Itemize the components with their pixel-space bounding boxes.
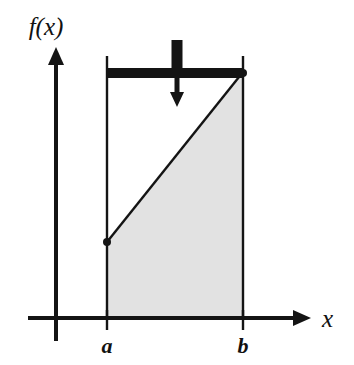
force-arrow-shaft xyxy=(175,76,180,92)
downward-force-arrow-icon xyxy=(170,92,184,107)
area-under-curve-region xyxy=(107,72,243,318)
diagram-canvas: f(x) x a b xyxy=(0,0,354,365)
right-arrow-axis-icon xyxy=(293,310,311,326)
tick-label-b: b xyxy=(238,333,249,358)
function-start-point-dot xyxy=(103,238,111,246)
x-axis-label: x xyxy=(321,305,333,332)
figure-root: f(x) x a b xyxy=(0,0,354,365)
y-axis-label: f(x) xyxy=(29,13,64,41)
tick-label-a: a xyxy=(102,333,113,358)
up-arrow-axis-icon xyxy=(48,47,64,65)
force-arrow-stub xyxy=(172,40,183,70)
